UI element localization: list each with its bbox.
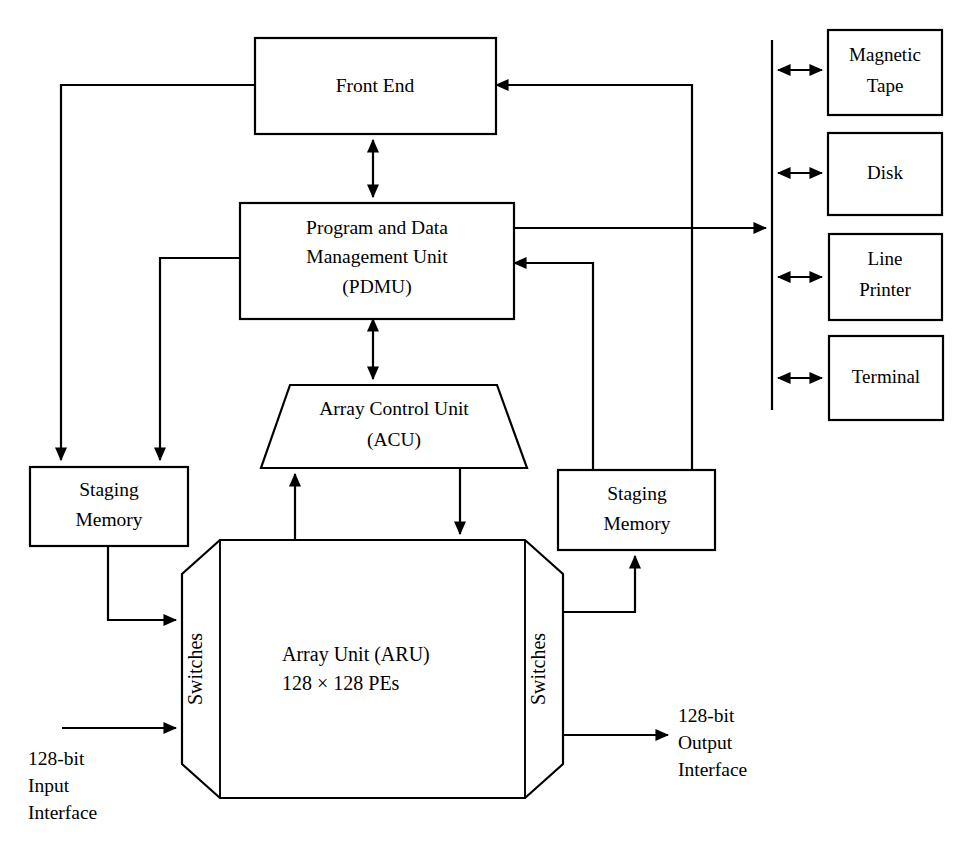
output-interface-line3: Interface — [678, 759, 747, 780]
label-input-interface: 128-bit Input Interface — [28, 748, 97, 823]
node-pdmu[interactable]: Program and Data Management Unit (PDMU) — [240, 203, 514, 319]
connector-staging-right-to-pdmu — [514, 263, 593, 470]
node-peripheral-magnetic-tape[interactable]: Magnetic Tape — [828, 30, 942, 115]
switches-left-label: Switches — [184, 633, 206, 705]
connector-staging-left-to-switches — [108, 546, 176, 620]
node-aru[interactable]: Array Unit (ARU) 128 × 128 PEs Switches … — [182, 540, 563, 798]
architecture-diagram: Front End Program and Data Management Un… — [0, 0, 973, 850]
staging-memory-left-line2: Memory — [75, 509, 142, 530]
pdmu-label-line1: Program and Data — [306, 217, 448, 238]
node-peripheral-disk[interactable]: Disk — [828, 133, 942, 215]
magnetic-tape-box — [828, 30, 942, 115]
acu-label-line1: Array Control Unit — [319, 398, 469, 419]
line-printer-label-line1: Line — [868, 248, 903, 269]
output-interface-line1: 128-bit — [678, 705, 735, 726]
pdmu-label-line2: Management Unit — [306, 246, 448, 267]
connector-frontend-to-staging-left — [61, 85, 255, 460]
node-peripheral-terminal[interactable]: Terminal — [829, 336, 943, 420]
line-printer-box — [829, 234, 942, 320]
switches-right-label: Switches — [527, 633, 549, 705]
staging-memory-right-line1: Staging — [607, 483, 667, 504]
label-output-interface: 128-bit Output Interface — [678, 705, 747, 780]
staging-memory-left-line1: Staging — [79, 479, 139, 500]
input-interface-line1: 128-bit — [28, 748, 85, 769]
magnetic-tape-label-line2: Tape — [867, 75, 904, 96]
input-interface-line2: Input — [28, 775, 70, 796]
node-peripheral-line-printer[interactable]: Line Printer — [829, 234, 942, 320]
staging-memory-right-line2: Memory — [603, 513, 670, 534]
node-staging-memory-right[interactable]: Staging Memory — [558, 470, 715, 550]
node-staging-memory-left[interactable]: Staging Memory — [30, 467, 188, 546]
pdmu-label-line3: (PDMU) — [342, 276, 411, 298]
block-diagram-canvas: Front End Program and Data Management Un… — [0, 0, 973, 850]
acu-trapezoid — [261, 385, 527, 468]
acu-label-line2: (ACU) — [367, 429, 421, 451]
connector-pdmu-to-staging-left — [160, 258, 240, 460]
aru-label-line2: 128 × 128 PEs — [282, 672, 400, 694]
node-front-end[interactable]: Front End — [255, 38, 496, 134]
staging-memory-right-box — [558, 470, 715, 550]
input-interface-line3: Interface — [28, 802, 97, 823]
aru-label-line1: Array Unit (ARU) — [282, 643, 430, 666]
terminal-label: Terminal — [852, 366, 920, 387]
aru-octagon — [182, 540, 563, 798]
front-end-label: Front End — [336, 75, 415, 96]
disk-label: Disk — [867, 162, 903, 183]
output-interface-line2: Output — [678, 732, 733, 753]
line-printer-label-line2: Printer — [859, 279, 911, 300]
node-acu[interactable]: Array Control Unit (ACU) — [261, 385, 527, 468]
magnetic-tape-label-line1: Magnetic — [849, 44, 921, 65]
connector-switches-to-staging-right — [563, 556, 635, 612]
